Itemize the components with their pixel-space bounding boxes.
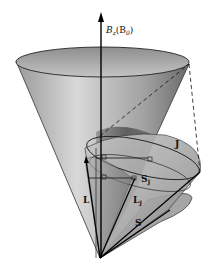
vector-coupling-diagram: Bz(B0) J L LJ SJ S bbox=[0, 0, 212, 274]
axis-arrow-icon bbox=[98, 12, 104, 22]
label-s: S bbox=[135, 218, 142, 228]
label-l: L bbox=[83, 195, 90, 205]
axis-label: Bz(B0) bbox=[105, 25, 133, 36]
label-j: J bbox=[174, 139, 179, 149]
